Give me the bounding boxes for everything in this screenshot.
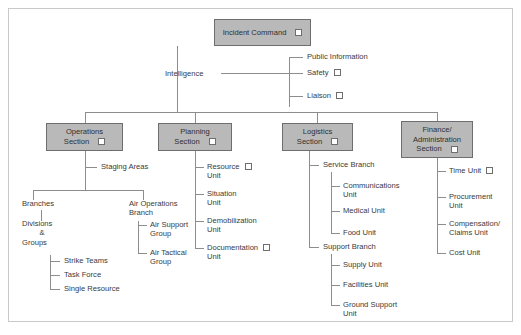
node-public-information[interactable]: Public Information [307, 52, 368, 61]
planning-section-checkbox[interactable] [209, 138, 216, 145]
task-force-label: Task Force [64, 270, 101, 279]
finance-section-line3: Section [416, 144, 441, 154]
planning-section-line2: Section [174, 137, 199, 147]
connector-service-branch-bracket [331, 172, 332, 233]
node-service-branch[interactable]: Service Branch [323, 160, 375, 169]
incident-command-checkbox[interactable] [295, 29, 302, 36]
connector-food-unit [331, 233, 340, 234]
communications-unit-line2: Unit [343, 190, 400, 199]
connector-ground-support-unit [331, 305, 340, 306]
liaison-label: Liaison [307, 91, 331, 100]
node-supply-unit[interactable]: Supply Unit [343, 260, 382, 269]
procurement-unit-line1: Procurement [449, 192, 492, 201]
safety-checkbox[interactable] [334, 69, 341, 76]
air-support-line1: Air Support [150, 220, 188, 229]
support-branch-label: Support Branch [323, 242, 376, 251]
compensation-unit-line1: Compensation/ [449, 219, 500, 228]
procurement-unit-line2: Unit [449, 201, 492, 210]
air-operations-line2: Branch [129, 208, 178, 217]
node-food-unit[interactable]: Food Unit [343, 228, 376, 237]
node-air-operations-branch[interactable]: Air Operations Branch [129, 199, 178, 218]
node-air-tactical-group[interactable]: Air Tactical Group [150, 248, 187, 267]
node-staging-areas[interactable]: Staging Areas [101, 162, 148, 171]
demobilization-unit-line1: Demobilization [207, 216, 257, 225]
divisions-label: Divisions [22, 219, 52, 228]
node-strike-teams[interactable]: Strike Teams [64, 256, 108, 265]
node-operations-section[interactable]: Operations Section [46, 123, 123, 151]
node-safety[interactable]: Safety [307, 68, 341, 77]
node-planning-section[interactable]: Planning Section [158, 123, 232, 151]
finance-section-checkbox[interactable] [451, 146, 458, 153]
ground-support-unit-line2: Unit [343, 309, 397, 318]
node-procurement-unit[interactable]: Procurement Unit [449, 192, 492, 211]
node-task-force[interactable]: Task Force [64, 270, 101, 279]
connector-single-resource [50, 289, 60, 290]
strike-teams-label: Strike Teams [64, 256, 108, 265]
node-liaison[interactable]: Liaison [307, 91, 343, 100]
operations-section-checkbox[interactable] [98, 138, 105, 145]
node-medical-unit[interactable]: Medical Unit [343, 206, 385, 215]
operations-section-line1: Operations [66, 127, 103, 137]
node-logistics-section[interactable]: Logistics Section [282, 123, 353, 151]
documentation-unit-line2: Unit [207, 252, 270, 261]
demobilization-unit-line2: Unit [207, 225, 257, 234]
branches-label: Branches [22, 199, 54, 208]
connector-intelligence [221, 73, 289, 74]
documentation-unit-checkbox[interactable] [263, 244, 270, 251]
situation-unit-line1: Situation [207, 189, 237, 198]
time-unit-checkbox[interactable] [486, 167, 493, 174]
liaison-checkbox[interactable] [336, 92, 343, 99]
connector-service-branch [309, 165, 319, 166]
node-communications-unit[interactable]: Communications Unit [343, 181, 400, 200]
node-demobilization-unit[interactable]: Demobilization Unit [207, 216, 257, 235]
node-resource-unit[interactable]: Resource Unit [207, 162, 252, 181]
connector-section-bus [85, 112, 438, 113]
node-intelligence[interactable]: Intelligence [165, 69, 203, 78]
node-single-resource[interactable]: Single Resource [64, 284, 120, 293]
air-tactical-line1: Air Tactical [150, 248, 187, 257]
node-time-unit[interactable]: Time Unit [449, 166, 493, 175]
intelligence-label: Intelligence [165, 69, 203, 78]
connector-demobilization-unit [195, 221, 204, 222]
org-chart-frame: Incident Command Intelligence Public Inf… [8, 8, 513, 322]
incident-command-label: Incident Command [223, 28, 287, 38]
safety-label: Safety [307, 68, 329, 77]
node-compensation-claims-unit[interactable]: Compensation/ Claims Unit [449, 219, 500, 238]
node-support-branch[interactable]: Support Branch [323, 242, 376, 251]
connector-strike-teams [50, 261, 60, 262]
finance-section-line1: Finance/ [422, 125, 451, 135]
connector-cost-unit [437, 253, 446, 254]
connector-planning-spine [195, 151, 196, 248]
connector-documentation-unit [195, 248, 204, 249]
node-air-support-group[interactable]: Air Support Group [150, 220, 188, 239]
connector-drop-operations [85, 112, 86, 123]
operations-section-line2: Section [64, 137, 89, 147]
node-incident-command[interactable]: Incident Command [214, 19, 311, 46]
service-branch-label: Service Branch [323, 160, 375, 169]
cost-unit-label: Cost Unit [449, 248, 480, 257]
medical-unit-label: Medical Unit [343, 206, 385, 215]
node-facilities-unit[interactable]: Facilities Unit [343, 280, 388, 289]
node-documentation-unit[interactable]: Documentation Unit [207, 243, 270, 262]
air-support-line2: Group [150, 229, 188, 238]
connector-command-stem [177, 46, 178, 112]
finance-section-line2: Administration [413, 135, 461, 145]
connector-compensation-claims-unit [437, 224, 446, 225]
staging-areas-label: Staging Areas [101, 162, 148, 171]
node-ground-support-unit[interactable]: Ground Support Unit [343, 300, 397, 319]
resource-unit-checkbox[interactable] [245, 163, 252, 170]
connector-drop-planning [195, 112, 196, 123]
node-branches[interactable]: Branches [22, 199, 54, 208]
connector-situation-unit [195, 194, 204, 195]
compensation-unit-line2: Claims Unit [449, 228, 500, 237]
communications-unit-line1: Communications [343, 181, 400, 190]
node-cost-unit[interactable]: Cost Unit [449, 248, 480, 257]
logistics-section-line2: Section [297, 137, 322, 147]
node-divisions-groups[interactable]: Divisions & Groups [22, 219, 62, 247]
logistics-section-checkbox[interactable] [331, 138, 338, 145]
facilities-unit-label: Facilities Unit [343, 280, 388, 289]
node-finance-administration-section[interactable]: Finance/ Administration Section [401, 121, 473, 158]
single-resource-label: Single Resource [64, 284, 120, 293]
node-situation-unit[interactable]: Situation Unit [207, 189, 237, 208]
connector-support-branch-bracket [331, 254, 332, 305]
